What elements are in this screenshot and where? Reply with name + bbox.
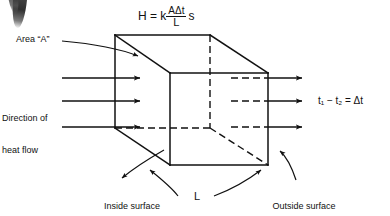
direction-of-heat-flow-label: Direction of heat flow (2, 92, 48, 176)
heat-flow-arrows-left (62, 78, 140, 127)
direction-label-line2: heat flow (2, 145, 48, 156)
equation-denominator: L (166, 16, 186, 28)
heat-flow-arrows-right (231, 78, 302, 127)
inside-surface-temperature-label: Inside surface temperature t₁ (86, 180, 178, 216)
cube-edge-top-left-diagonal (115, 35, 170, 73)
leader-lines (62, 41, 296, 196)
cube-hidden-edges (115, 35, 268, 165)
inside-label-line1: Inside surface (86, 201, 178, 212)
diagram-canvas: H = kAΔtLs Area “A” Direction of heat fl… (0, 0, 390, 216)
outside-surface-leader-arrow (280, 151, 296, 180)
thickness-label: L (190, 191, 204, 202)
equation-trailing: s (188, 9, 194, 23)
inside-surface-leader-arrow (122, 150, 164, 178)
cube-hidden-edge-bottom-right-diagonal (210, 128, 268, 165)
cube-solid-edges (115, 35, 268, 165)
outside-label-line1: Outside surface (254, 201, 354, 212)
area-label: Area “A” (16, 34, 50, 45)
equation-numerator: AΔt (166, 6, 186, 16)
delta-t-label: t₁ − t₂ = Δt (318, 96, 363, 107)
heat-equation: H = kAΔtLs (138, 6, 194, 28)
cube-edge-top-right-diagonal (210, 35, 268, 73)
cube-edge-bottom-left-diagonal (115, 128, 170, 165)
outside-surface-temperature-label: Outside surface temperature t₂ (254, 180, 354, 216)
direction-label-line1: Direction of (2, 113, 48, 124)
equation-fraction: AΔtL (166, 6, 186, 28)
equation-lhs: H = k (138, 9, 166, 23)
